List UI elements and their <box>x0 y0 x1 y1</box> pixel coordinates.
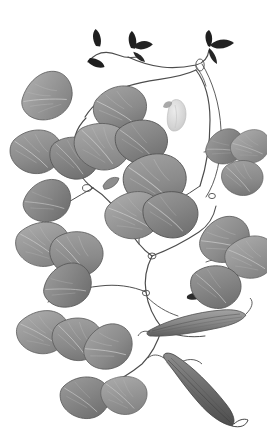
specimen-plate-canvas <box>0 0 267 443</box>
botanical-specimen-illustration <box>0 0 267 443</box>
